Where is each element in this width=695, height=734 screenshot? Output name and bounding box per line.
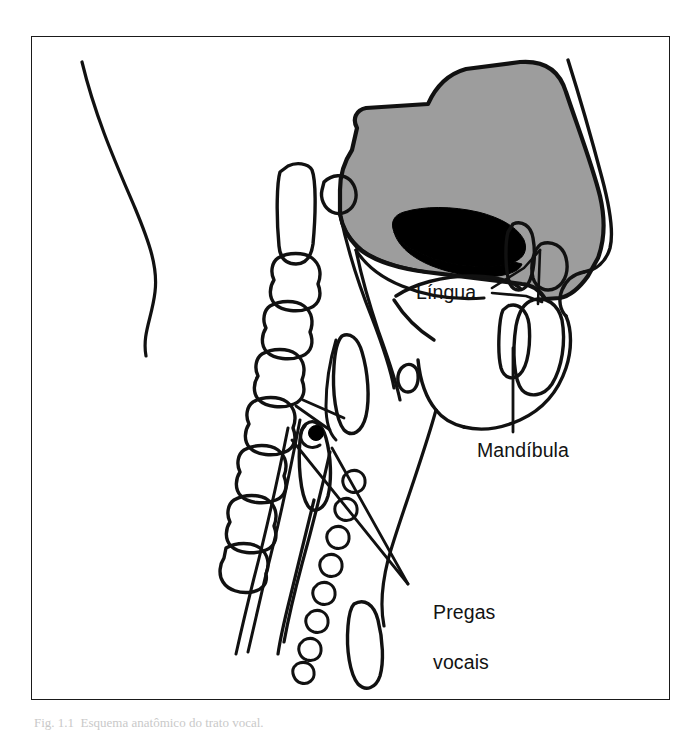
figure-root: Língua Mandíbula Pregas vocais Fig. 1.1 … [0, 0, 695, 734]
label-lingua: Língua [416, 280, 476, 305]
label-pregas-vocais: Pregas vocais [411, 575, 495, 700]
label-pregas-line1: Pregas [433, 601, 495, 623]
figure-caption: Fig. 1.1 Esquema anatômico do trato voca… [34, 714, 654, 734]
label-mandibula: Mandíbula [477, 438, 569, 463]
figure-border-frame [31, 36, 670, 700]
label-pregas-line2: vocais [433, 651, 489, 673]
